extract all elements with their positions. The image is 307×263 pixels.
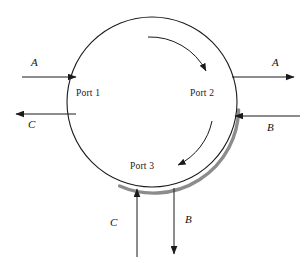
stream-label-b-inlet: B	[267, 121, 274, 133]
stream-label-b-outlet-bottom: B	[185, 213, 192, 225]
stream-label-c-inlet-bottom: C	[110, 216, 117, 228]
port-2-label: Port 2	[190, 88, 214, 98]
stream-label-a-inlet: A	[31, 56, 38, 68]
diagram-canvas: Port 1 Port 2 Port 3 A C A B C B	[0, 0, 307, 263]
port-1-label: Port 1	[76, 88, 100, 98]
stream-label-c-outlet: C	[28, 118, 35, 130]
diagram-svg	[0, 0, 307, 263]
port-3-label: Port 3	[130, 161, 154, 171]
stream-label-a-outlet: A	[272, 56, 279, 68]
